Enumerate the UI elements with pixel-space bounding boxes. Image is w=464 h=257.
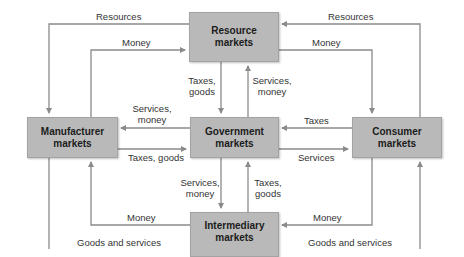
label-money-left-bottom: Money [127,212,156,223]
flow-resources-right [282,24,420,117]
label-gov-to-int-1: Services, [180,177,220,188]
label-res-to-gov: Taxes, goods [186,75,218,97]
label-int-to-gov-1: Taxes, [252,177,284,188]
label-gov-to-res: Services, money [252,75,292,97]
resource-markets-box: Resource markets [189,12,279,62]
label-gov-to-mfr: Services, money [132,103,172,125]
label-money-right-top: Money [312,37,341,48]
resource-markets-label-2: markets [211,37,257,49]
government-markets-label-1: Government [205,126,264,138]
label-gov-to-cons: Services [298,152,334,163]
label-resources-right: Resources [328,11,373,22]
label-gov-to-mfr-2: money [132,114,172,125]
intermediary-markets-label-2: markets [204,232,264,244]
flow-money-right-top [278,50,372,113]
government-markets-label-2: markets [205,138,264,150]
resource-markets-label-1: Resource [211,25,257,37]
label-gov-to-int-2: money [180,188,220,199]
flow-resources-left [49,24,189,113]
label-mfr-to-gov: Taxes, goods [128,152,184,163]
label-gov-to-int: Services, money [180,177,220,199]
label-int-to-gov-2: goods [252,188,284,199]
manufacturer-markets-label-2: markets [41,138,104,150]
label-money-right-bottom: Money [313,212,342,223]
intermediary-markets-label-1: Intermediary [204,220,264,232]
consumer-markets-box: Consumer markets [352,117,442,158]
government-markets-box: Government markets [190,117,279,158]
label-cons-to-gov: Taxes [304,115,329,126]
manufacturer-markets-box: Manufacturer markets [27,117,118,158]
manufacturer-markets-label-1: Manufacturer [41,126,104,138]
label-goods-right: Goods and services [308,237,392,248]
label-gov-to-mfr-1: Services, [132,103,172,114]
consumer-markets-label-2: markets [372,138,421,150]
label-res-to-gov-2: goods [186,86,218,97]
consumer-markets-label-1: Consumer [372,126,421,138]
label-gov-to-res-2: money [252,86,292,97]
label-goods-left: Goods and services [77,237,161,248]
label-gov-to-res-1: Services, [252,75,292,86]
label-resources-left: Resources [96,11,141,22]
label-money-left-top: Money [122,37,151,48]
label-int-to-gov: Taxes, goods [252,177,284,199]
label-res-to-gov-1: Taxes, [186,75,218,86]
intermediary-markets-box: Intermediary markets [190,212,279,257]
